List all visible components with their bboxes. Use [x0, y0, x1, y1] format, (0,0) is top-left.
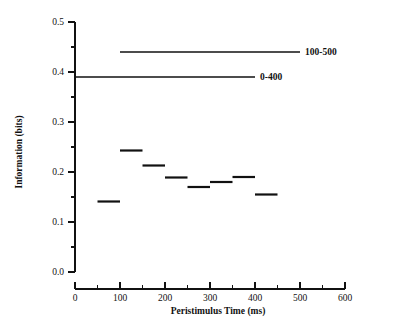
y-axis: 0.00.10.20.30.40.5: [52, 17, 75, 277]
y-tick-label: 0.2: [52, 167, 64, 177]
chart-figure: 0.00.10.20.30.40.5 0100200300400500600 1…: [0, 0, 400, 324]
x-tick-label: 400: [248, 293, 263, 303]
y-tick-label: 0.3: [52, 117, 64, 127]
y-tick-label: 0.4: [52, 67, 64, 77]
series-label-0-400: 0-400: [260, 72, 282, 82]
x-tick-label: 300: [203, 293, 218, 303]
y-tick-label: 0.0: [52, 267, 64, 277]
x-tick-label: 0: [73, 293, 78, 303]
series-label-100-500: 100-500: [305, 47, 337, 57]
x-axis-title: Peristimulus Time (ms): [171, 306, 266, 317]
x-axis: 0100200300400500600: [73, 282, 353, 303]
chart-canvas: 0.00.10.20.30.40.5 0100200300400500600 1…: [0, 0, 400, 324]
x-tick-label: 100: [113, 293, 128, 303]
x-tick-label: 200: [158, 293, 173, 303]
y-tick-label: 0.1: [52, 217, 64, 227]
y-tick-label: 0.5: [52, 17, 64, 27]
y-axis-title: Information (bits): [14, 115, 25, 188]
x-tick-label: 500: [293, 293, 308, 303]
x-tick-label: 600: [338, 293, 353, 303]
